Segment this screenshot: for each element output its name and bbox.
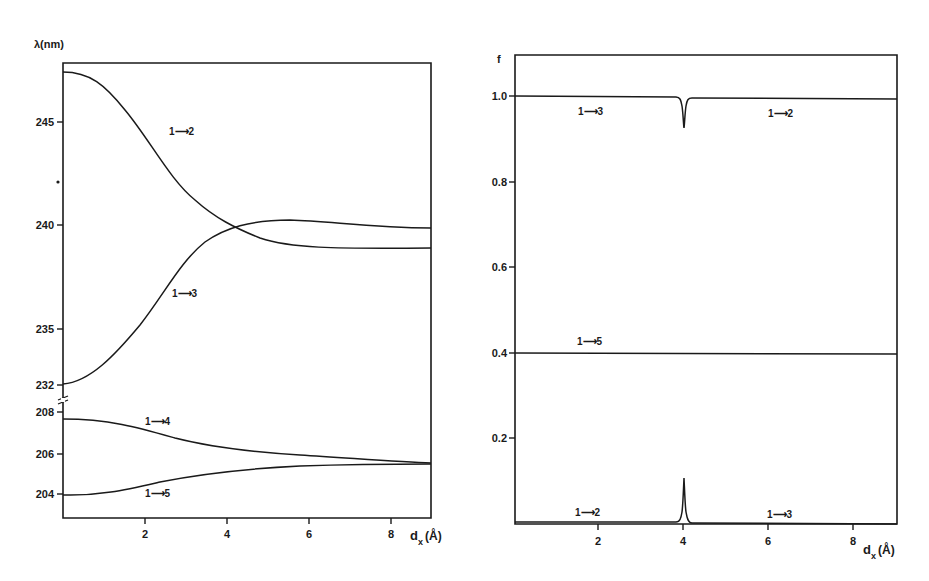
left-x-tick-8: 8	[388, 528, 394, 540]
left-y-tick-204: 204	[36, 488, 55, 500]
right-x-axis-label: d x (Å)	[863, 542, 895, 561]
left-plot: λ(nm) 245 240 235 232 208 206 204	[34, 38, 442, 547]
left-y-tick-232: 232	[36, 379, 54, 391]
curve-1-4	[63, 419, 431, 463]
right-x-tick-8: 8	[850, 535, 856, 547]
svg-text:(Å): (Å)	[878, 542, 895, 557]
label-1-4: 1⟶4	[145, 416, 171, 427]
axis-break-gap	[61, 398, 65, 402]
left-curves	[63, 72, 431, 495]
right-plot-frame	[515, 55, 897, 524]
svg-text:x: x	[418, 537, 423, 547]
svg-text:d: d	[410, 528, 418, 543]
left-x-tick-6: 6	[306, 528, 312, 540]
label-top-1-2: 1⟶2	[768, 108, 794, 119]
label-1-5: 1⟶5	[145, 488, 171, 499]
left-plot-frame	[63, 63, 431, 518]
right-x-tick-6: 6	[765, 535, 771, 547]
left-x-axis-label: d x (Å)	[410, 528, 442, 547]
right-plot: f 1.0 0.8 0.6 0.4 0.2 2 4 6 8 d x (Å)	[492, 53, 897, 561]
left-y-tick-208: 208	[36, 406, 54, 418]
right-x-tick-2: 2	[595, 535, 601, 547]
left-y-tick-240: 240	[36, 219, 54, 231]
curve-1-5-flat	[515, 353, 897, 354]
label-mid-1-5: 1⟶5	[577, 336, 603, 347]
label-top-1-3: 1⟶3	[578, 106, 604, 117]
left-x-tick-2: 2	[142, 528, 148, 540]
right-x-ticks	[598, 524, 853, 530]
curve-upper-branch	[515, 96, 897, 128]
label-1-3: 1⟶3	[172, 288, 198, 299]
right-curves	[515, 96, 897, 524]
svg-text:d: d	[863, 542, 871, 557]
right-y-tick-0-4: 0.4	[492, 347, 508, 359]
right-x-tick-4: 4	[680, 535, 687, 547]
right-y-ticks	[509, 96, 515, 438]
label-1-2: 1⟶2	[169, 126, 195, 137]
svg-text:(Å): (Å)	[425, 528, 442, 543]
right-y-tick-0-2: 0.2	[492, 432, 507, 444]
label-bot-1-2: 1⟶2	[575, 507, 601, 518]
curve-1-5	[63, 464, 431, 495]
left-x-tick-4: 4	[224, 528, 231, 540]
curve-lower-branch	[515, 478, 897, 524]
right-y-tick-0-6: 0.6	[492, 261, 507, 273]
right-y-axis-label: f	[497, 53, 501, 65]
left-y-axis-label: λ(nm)	[34, 38, 64, 50]
left-y-tick-206: 206	[36, 448, 54, 460]
left-y-tick-245: 245	[36, 116, 54, 128]
curve-1-3	[63, 220, 431, 384]
label-bot-1-3: 1⟶3	[767, 509, 793, 520]
right-y-tick-1-0: 1.0	[492, 90, 507, 102]
stray-dot	[56, 180, 59, 183]
right-y-tick-0-8: 0.8	[492, 176, 507, 188]
figure-canvas: λ(nm) 245 240 235 232 208 206 204	[0, 0, 929, 581]
left-y-tick-235: 235	[36, 323, 54, 335]
svg-text:x: x	[871, 551, 876, 561]
left-x-ticks	[145, 518, 391, 524]
left-y-ticks	[57, 122, 63, 494]
curve-1-2	[63, 72, 431, 248]
